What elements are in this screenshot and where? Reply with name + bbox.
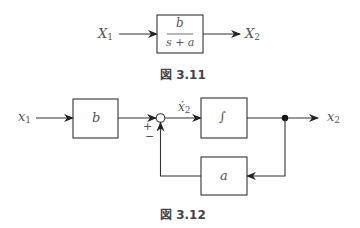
- caption-3-12: 図 3.12: [160, 209, 206, 221]
- feedback-block-label: a: [220, 169, 228, 182]
- output-label-X2: X2: [245, 27, 260, 42]
- input-label-x1: x1: [18, 110, 31, 125]
- block-numerator: b: [176, 17, 184, 29]
- summing-junction: [156, 114, 165, 123]
- input-label-X1: X1: [98, 27, 113, 42]
- output-label-x2: x2: [327, 110, 340, 125]
- feedback-path-out: [247, 118, 285, 176]
- derivative-label-x2dot: ẋ2: [178, 101, 191, 115]
- block-denominator: s + a: [166, 37, 194, 48]
- caption-3-11: 図 3.11: [160, 69, 206, 81]
- sum-minus-sign: −: [145, 131, 154, 142]
- integrator-label: ∫: [219, 110, 226, 123]
- feedback-path-in: [161, 123, 202, 177]
- figure-3-12: [36, 98, 318, 195]
- gain-block-label: b: [92, 111, 100, 124]
